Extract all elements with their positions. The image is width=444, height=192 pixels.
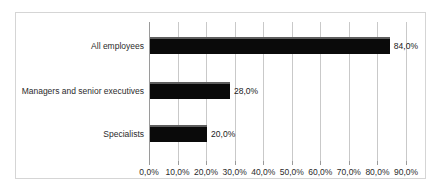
tick-mark: [178, 161, 179, 165]
tick-mark: [149, 161, 150, 165]
value-label: 84,0%: [394, 41, 418, 51]
x-tick-label: 0,0%: [139, 167, 158, 178]
bar[interactable]: [150, 82, 230, 99]
tick-mark: [406, 161, 407, 165]
category-label: All employees: [91, 41, 144, 51]
tick-mark: [235, 161, 236, 165]
x-tick-label: 40,0%: [251, 167, 275, 178]
bar[interactable]: [150, 37, 390, 54]
value-label: 28,0%: [234, 86, 258, 96]
value-label: 20,0%: [211, 129, 235, 139]
x-tick-label: 80,0%: [365, 167, 389, 178]
tick-mark: [263, 161, 264, 165]
x-tick-label: 60,0%: [308, 167, 332, 178]
tick-mark: [377, 161, 378, 165]
plot-area: All employees84,0%Managers and senior ex…: [149, 22, 406, 161]
x-tick-label: 90,0%: [394, 167, 418, 178]
tick-mark: [320, 161, 321, 165]
chart-frame: All employees84,0%Managers and senior ex…: [15, 12, 426, 179]
tick-mark: [292, 161, 293, 165]
x-tick-label: 70,0%: [337, 167, 361, 178]
x-tick-label: 20,0%: [194, 167, 218, 178]
x-tick-label: 10,0%: [165, 167, 189, 178]
x-axis-tick-labels: 0,0%10,0%20,0%30,0%40,0%50,0%60,0%70,0%8…: [149, 167, 406, 181]
x-tick-label: 30,0%: [223, 167, 247, 178]
category-label: Managers and senior executives: [22, 86, 144, 96]
tick-mark: [206, 161, 207, 165]
tick-mark: [349, 161, 350, 165]
x-tick-label: 50,0%: [280, 167, 304, 178]
bar[interactable]: [150, 125, 207, 142]
category-label: Specialists: [103, 129, 144, 139]
